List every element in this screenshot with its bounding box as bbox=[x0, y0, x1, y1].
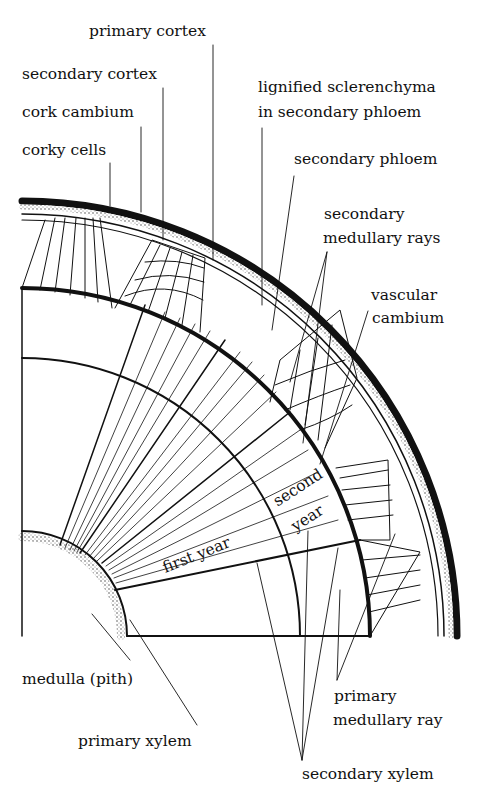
label-secondary-medullary-rays: secondary bbox=[324, 205, 404, 224]
label-lignified-sclerenchyma: lignified sclerenchyma bbox=[258, 78, 436, 97]
label-corky-cells: corky cells bbox=[22, 141, 106, 160]
label-vascular-cambium-2: cambium bbox=[372, 309, 444, 328]
annual-ring-boundary bbox=[22, 358, 300, 636]
label-lignified-sclerenchyma-2: in secondary phloem bbox=[258, 103, 421, 122]
label-secondary-phloem: secondary phloem bbox=[294, 150, 437, 169]
label-secondary-xylem: secondary xylem bbox=[302, 765, 434, 784]
label-primary-medullary-ray: primary bbox=[334, 687, 396, 706]
label-primary-medullary-ray-2: medullary ray bbox=[333, 711, 442, 730]
medulla-boundary bbox=[22, 531, 127, 636]
label-primary-cortex: primary cortex bbox=[89, 22, 206, 41]
label-medulla-pith: medulla (pith) bbox=[22, 670, 133, 689]
label-secondary-medullary-rays-2: medullary rays bbox=[323, 229, 440, 248]
label-cork-cambium: cork cambium bbox=[22, 103, 134, 122]
label-vascular-cambium: vascular bbox=[371, 286, 437, 305]
label-primary-xylem: primary xylem bbox=[78, 732, 192, 751]
label-secondary-cortex: secondary cortex bbox=[22, 65, 157, 84]
